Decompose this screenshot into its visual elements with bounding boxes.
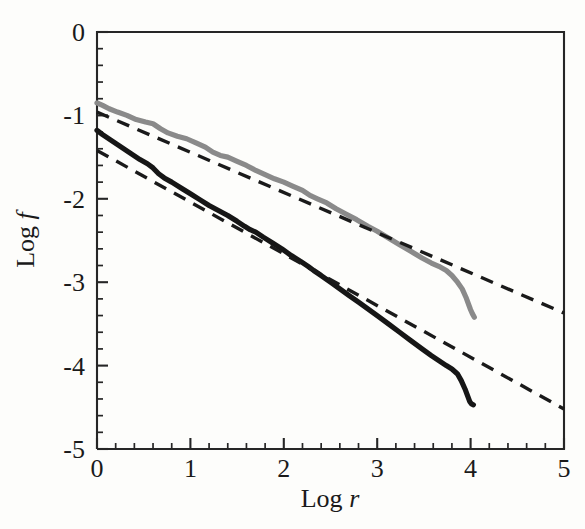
x-tick-label: 4	[464, 454, 477, 483]
x-tick-label: 2	[277, 454, 290, 483]
y-tick-label: 0	[72, 18, 85, 47]
y-tick-label: -2	[63, 185, 85, 214]
y-tick-label: -3	[63, 268, 85, 297]
y-tick-label: -4	[63, 352, 85, 381]
y-tick-label: -5	[63, 435, 85, 464]
y-axis-title: Log f	[11, 208, 40, 267]
svg-text:Log f: Log f	[11, 208, 40, 267]
x-tick-label: 5	[558, 454, 571, 483]
log-log-plot: 012345 0-1-2-3-4-5 Log r Log f	[0, 0, 585, 529]
svg-text:Log r: Log r	[301, 484, 360, 513]
x-tick-label: 3	[371, 454, 384, 483]
figure-container: 012345 0-1-2-3-4-5 Log r Log f	[0, 0, 585, 529]
x-tick-label: 0	[91, 454, 104, 483]
x-tick-label: 1	[184, 454, 197, 483]
y-tick-label: -1	[63, 101, 85, 130]
x-axis-title: Log r	[301, 484, 360, 513]
